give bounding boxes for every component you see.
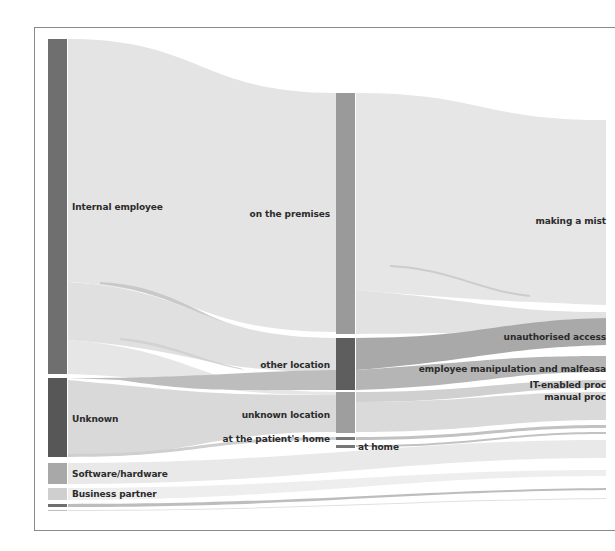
node-patients-home[interactable] xyxy=(336,437,355,440)
node-unknown[interactable] xyxy=(48,378,67,457)
node-unknown-location[interactable] xyxy=(336,392,355,433)
nodes-source xyxy=(48,39,67,511)
node-internal-employee[interactable] xyxy=(48,39,67,374)
node-small-1[interactable] xyxy=(48,504,67,507)
label-at-home: at home xyxy=(358,442,399,452)
node-small-2[interactable] xyxy=(48,510,67,511)
nodes-location xyxy=(336,93,355,448)
label-unknown: Unknown xyxy=(72,414,118,424)
label-business-partner: Business partner xyxy=(72,489,157,499)
node-business-partner[interactable] xyxy=(48,488,67,500)
flow-premises-mistake xyxy=(356,93,606,305)
label-unauthorised-access: unauthorised access xyxy=(504,332,606,342)
label-it-enabled: IT-enabled proc xyxy=(529,380,606,390)
label-employee-manipulation: employee manipulation and malfeasa xyxy=(419,364,606,374)
node-software-hardware[interactable] xyxy=(48,463,67,484)
node-at-home[interactable] xyxy=(336,445,355,448)
label-manual: manual proc xyxy=(544,392,606,402)
label-on-the-premises: on the premises xyxy=(250,209,330,219)
label-making-a-mistake: making a mist xyxy=(535,216,606,226)
label-software-hardware: Software/hardware xyxy=(72,469,168,479)
label-unknown-location: unknown location xyxy=(242,410,330,420)
label-internal-employee: Internal employee xyxy=(72,202,163,212)
node-other-location[interactable] xyxy=(336,338,355,390)
node-on-the-premises[interactable] xyxy=(336,93,355,334)
label-other-location: other location xyxy=(260,360,330,370)
label-patients-home: at the patient's home xyxy=(223,434,330,444)
